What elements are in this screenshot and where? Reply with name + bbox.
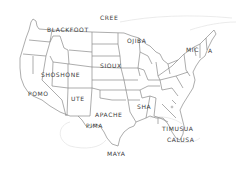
label-blackfoot: BLACKFOOT [47,26,89,33]
label-ojiba: OJIBA [127,37,146,44]
label-calusa: CALUSA [167,136,194,143]
marker-dot [171,106,173,108]
label-timusua: TIMUSUA [162,125,194,132]
us-outline-map [0,0,243,169]
label-mic: MIC [186,46,199,53]
label-apache: APACHE [95,111,122,118]
tribes-map: CREE BLACKFOOT OJIBA MIC A SIOUX SHOSHON… [0,0,243,169]
label-ute: UTE [71,95,85,102]
label-a: A [208,47,213,54]
label-maya: MAYA [107,150,126,157]
label-pomo: POMO [28,90,49,97]
label-pima: PIMA [86,122,103,129]
label-cree: CREE [100,14,118,21]
label-sioux: SIOUX [100,62,122,69]
label-sha: SHA [137,103,151,110]
label-shoshone: SHOSHONE [41,71,80,78]
